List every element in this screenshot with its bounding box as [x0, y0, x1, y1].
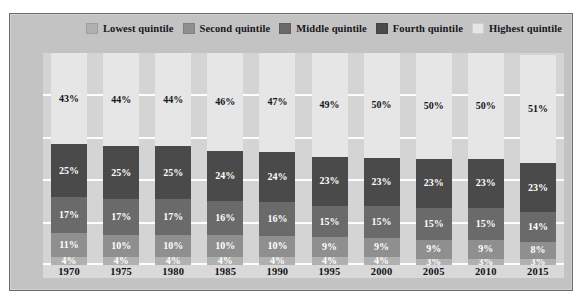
- bar-segment-fourth-quintile: 23%: [520, 163, 556, 212]
- x-tick-1980: 1980: [155, 266, 191, 277]
- bar-segment-middle-quintile: 17%: [155, 199, 191, 235]
- bar-2000[interactable]: 50%23%15%9%4%: [364, 53, 400, 265]
- bar-segment-second-quintile: 11%: [51, 233, 87, 256]
- bar-segment-middle-quintile: 15%: [364, 206, 400, 237]
- bar-segment-second-quintile: 10%: [103, 235, 139, 256]
- bar-1975[interactable]: 44%25%17%10%4%: [103, 53, 139, 265]
- bar-1985[interactable]: 46%24%16%10%4%: [207, 53, 243, 265]
- legend-swatch-icon: [472, 23, 484, 34]
- chart-panel: Lowest quintileSecond quintileMiddle qui…: [9, 13, 573, 291]
- bar-1995[interactable]: 49%23%15%9%4%: [312, 53, 348, 265]
- bar-segment-fourth-quintile: 24%: [259, 152, 295, 202]
- bar-segment-fourth-quintile: 24%: [207, 151, 243, 202]
- stacked-bars: 43%25%17%11%4%44%25%17%10%4%44%25%17%10%…: [43, 53, 564, 265]
- bar-1990[interactable]: 47%24%16%10%4%: [259, 53, 295, 265]
- x-tick-2010: 2010: [468, 266, 504, 277]
- legend-swatch-icon: [279, 23, 291, 34]
- bar-segment-highest-quintile: 47%: [259, 53, 295, 152]
- bar-segment-middle-quintile: 17%: [103, 199, 139, 235]
- bar-segment-second-quintile: 8%: [520, 242, 556, 259]
- bar-segment-lowest-quintile: 4%: [312, 257, 348, 265]
- bar-segment-fourth-quintile: 23%: [416, 159, 452, 208]
- bar-segment-fourth-quintile: 23%: [312, 157, 348, 206]
- x-tick-1975: 1975: [103, 266, 139, 277]
- plot-area: 020406080100 43%25%17%11%4%44%25%17%10%4…: [43, 53, 564, 265]
- bar-segment-lowest-quintile: 4%: [103, 257, 139, 265]
- bar-segment-second-quintile: 10%: [155, 235, 191, 256]
- legend-swatch-icon: [183, 23, 195, 34]
- bar-segment-highest-quintile: 44%: [155, 53, 191, 146]
- x-tick-1990: 1990: [259, 266, 295, 277]
- legend-item-0[interactable]: Lowest quintile: [86, 23, 174, 34]
- x-tick-2005: 2005: [416, 266, 452, 277]
- bar-1980[interactable]: 44%25%17%10%4%: [155, 53, 191, 265]
- chart-screenshot: Lowest quintileSecond quintileMiddle qui…: [0, 0, 581, 303]
- bar-segment-highest-quintile: 51%: [520, 55, 556, 163]
- x-tick-1985: 1985: [207, 266, 243, 277]
- chart-legend: Lowest quintileSecond quintileMiddle qui…: [10, 18, 572, 38]
- legend-item-4[interactable]: Highest quintile: [472, 23, 562, 34]
- bar-segment-middle-quintile: 15%: [312, 206, 348, 238]
- bar-segment-fourth-quintile: 25%: [51, 144, 87, 197]
- bar-1970[interactable]: 43%25%17%11%4%: [51, 53, 87, 265]
- x-tick-1970: 1970: [51, 266, 87, 277]
- bar-2005[interactable]: 50%23%15%9%3%: [416, 53, 452, 265]
- bar-segment-highest-quintile: 43%: [51, 53, 87, 144]
- bar-segment-highest-quintile: 44%: [103, 53, 139, 146]
- bar-segment-lowest-quintile: 4%: [259, 257, 295, 265]
- bar-segment-second-quintile: 9%: [416, 240, 452, 259]
- bar-segment-lowest-quintile: 4%: [51, 257, 87, 265]
- bar-segment-lowest-quintile: 4%: [207, 257, 243, 265]
- bar-segment-middle-quintile: 17%: [51, 197, 87, 233]
- legend-label: Fourth quintile: [393, 23, 463, 34]
- bar-segment-middle-quintile: 15%: [468, 208, 504, 240]
- bar-segment-second-quintile: 9%: [468, 240, 504, 259]
- bar-2015[interactable]: 51%23%14%8%3%: [520, 53, 556, 265]
- bar-segment-second-quintile: 9%: [364, 238, 400, 257]
- bar-segment-highest-quintile: 50%: [468, 53, 504, 159]
- x-tick-2015: 2015: [520, 266, 556, 277]
- bar-segment-fourth-quintile: 23%: [364, 158, 400, 206]
- bar-segment-middle-quintile: 15%: [416, 208, 452, 240]
- legend-label: Middle quintile: [296, 23, 367, 34]
- bar-segment-lowest-quintile: 4%: [155, 257, 191, 265]
- legend-item-2[interactable]: Middle quintile: [279, 23, 367, 34]
- bar-segment-lowest-quintile: 4%: [364, 257, 400, 265]
- legend-item-1[interactable]: Second quintile: [183, 23, 271, 34]
- bar-segment-middle-quintile: 16%: [259, 202, 295, 236]
- legend-item-3[interactable]: Fourth quintile: [376, 23, 463, 34]
- bar-segment-second-quintile: 9%: [312, 237, 348, 256]
- legend-swatch-icon: [86, 23, 98, 34]
- x-tick-2000: 2000: [364, 266, 400, 277]
- plot-wrapper: 020406080100 43%25%17%11%4%44%25%17%10%4…: [43, 53, 564, 278]
- bar-segment-highest-quintile: 50%: [364, 53, 400, 158]
- bar-segment-second-quintile: 10%: [207, 235, 243, 256]
- bar-segment-highest-quintile: 50%: [416, 53, 452, 159]
- x-tick-1995: 1995: [312, 266, 348, 277]
- legend-label: Lowest quintile: [103, 23, 174, 34]
- bar-segment-highest-quintile: 46%: [207, 53, 243, 151]
- bar-2010[interactable]: 50%23%15%9%3%: [468, 53, 504, 265]
- bar-segment-highest-quintile: 49%: [312, 53, 348, 157]
- x-axis-tick-labels: 1970197519801985199019952000200520102015: [43, 265, 564, 278]
- legend-swatch-icon: [376, 23, 388, 34]
- bar-segment-fourth-quintile: 25%: [103, 146, 139, 199]
- bar-segment-middle-quintile: 16%: [207, 201, 243, 235]
- legend-label: Second quintile: [200, 23, 271, 34]
- bar-segment-second-quintile: 10%: [259, 236, 295, 257]
- bar-segment-fourth-quintile: 23%: [468, 159, 504, 208]
- legend-label: Highest quintile: [489, 23, 562, 34]
- bar-segment-fourth-quintile: 25%: [155, 146, 191, 199]
- bar-segment-middle-quintile: 14%: [520, 212, 556, 242]
